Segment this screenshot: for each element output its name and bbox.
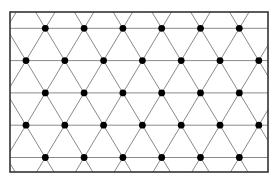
lattice-point: [61, 57, 68, 64]
lattice-point: [81, 25, 88, 32]
lattice-point: [139, 57, 146, 64]
diagonal-line: [272, 0, 279, 180]
frame-border: [10, 12, 268, 172]
lattice-point: [178, 122, 185, 129]
lattice-point: [255, 57, 262, 64]
lattice-point: [42, 25, 49, 32]
diagonal-line: [0, 0, 14, 180]
lattice-point: [158, 25, 165, 32]
lattice-point: [42, 90, 49, 97]
lattice-point: [255, 122, 262, 129]
lattice-point: [197, 25, 204, 32]
lattice-point: [100, 122, 107, 129]
triangular-lattice-diagram: [0, 0, 279, 180]
lattice-point: [217, 57, 224, 64]
lattice-point: [197, 154, 204, 161]
diagonal-line: [271, 0, 279, 180]
lattice-point: [158, 90, 165, 97]
lattice-point: [139, 122, 146, 129]
lattice-point: [158, 154, 165, 161]
lattice-point: [217, 122, 224, 129]
lattice-point: [236, 25, 243, 32]
lattice-point: [236, 154, 243, 161]
diagonal-line: [155, 0, 279, 180]
lattice-point: [81, 154, 88, 161]
lattice-point: [120, 154, 127, 161]
lattice-point: [81, 90, 88, 97]
lattice-point: [42, 154, 49, 161]
diagonal-line: [156, 0, 279, 180]
lattice-point: [61, 122, 68, 129]
diagonal-line: [0, 0, 129, 180]
lattice-point: [197, 90, 204, 97]
lattice-point: [120, 90, 127, 97]
lattice-point: [23, 122, 30, 129]
lattice-point: [236, 90, 243, 97]
lattice-point: [120, 25, 127, 32]
lattice-point: [23, 57, 30, 64]
lattice-point: [100, 57, 107, 64]
diagonal-line: [0, 0, 130, 180]
lattice-point: [178, 57, 185, 64]
